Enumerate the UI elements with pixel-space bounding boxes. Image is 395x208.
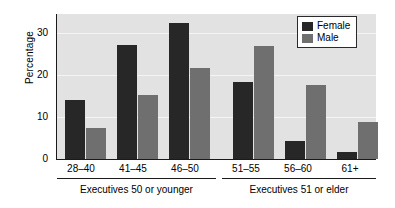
bar-female-46_50 xyxy=(169,23,189,159)
bar-female-56_60 xyxy=(285,141,305,159)
x-tick-label-1: 41–45 xyxy=(103,163,163,174)
legend-item-female: Female xyxy=(302,20,350,32)
x-tick-label-0: 28–40 xyxy=(51,163,111,174)
y-tick-label-0: 0 xyxy=(26,155,48,163)
bar-male-61+ xyxy=(358,122,378,159)
bar-female-28_40 xyxy=(65,100,85,159)
bar-female-51_55 xyxy=(233,82,253,159)
y-tick-label-30: 30 xyxy=(26,29,48,37)
legend-swatch-female-icon xyxy=(302,22,313,31)
legend-label-female: Female xyxy=(317,21,350,31)
bar-male-46_50 xyxy=(190,68,210,159)
gridline-10 xyxy=(57,117,376,118)
group-label-0: Executives 50 or younger xyxy=(57,184,216,195)
bar-female-61+ xyxy=(337,152,357,160)
bar-male-28_40 xyxy=(86,128,106,159)
bar-male-56_60 xyxy=(306,85,326,159)
y-tick-label-10: 10 xyxy=(26,113,48,121)
gridline-20 xyxy=(57,75,376,76)
legend: Female Male xyxy=(297,16,357,48)
bar-male-51_55 xyxy=(254,46,274,159)
x-tick-label-4: 56–60 xyxy=(268,163,328,174)
legend-item-male: Male xyxy=(302,32,350,44)
y-tick-label-20: 20 xyxy=(26,71,48,79)
bar-male-41_45 xyxy=(138,95,158,159)
group-label-1: Executives 51 or elder xyxy=(222,184,376,195)
legend-swatch-male-icon xyxy=(302,34,313,43)
group-rule-0 xyxy=(57,178,216,179)
x-tick-label-3: 51–55 xyxy=(216,163,276,174)
x-tick-label-5: 61+ xyxy=(320,163,380,174)
bar-chart: Percentage 30 20 10 0 Female Male 28–40 … xyxy=(0,0,395,208)
y-axis-label: Percentage xyxy=(24,3,35,113)
bar-female-41_45 xyxy=(117,45,137,159)
group-rule-1 xyxy=(222,178,376,179)
legend-label-male: Male xyxy=(317,33,339,43)
x-tick-label-2: 46–50 xyxy=(155,163,215,174)
